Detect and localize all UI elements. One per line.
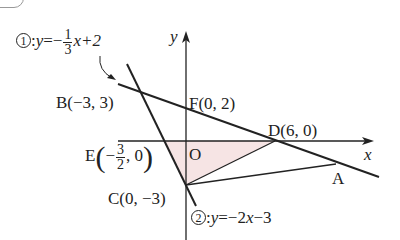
point-a-label: A [332,170,344,187]
point-c-label: C(0, −3) [108,190,166,207]
paren-open: ( [95,140,105,173]
eq1-rest: x+2 [73,31,101,50]
eq2-eq: =−2 [218,208,246,227]
eq2-x: x [246,208,254,227]
e-frac-num: 3 [116,143,125,158]
point-f-label: F(0, 2) [189,95,235,112]
circled-number-1: 1 [16,33,31,48]
pointer-arrowhead-icon [107,74,116,80]
e-frac-den: 2 [116,158,125,172]
x-axis-label: x [364,146,372,163]
eq1-frac-num: 1 [63,28,72,43]
eq1-frac-den: 3 [63,43,72,57]
point-d-label: D(6, 0) [268,122,317,139]
point-b-label: B(−3, 3) [56,94,114,111]
equation-2-label: 2:y=−2x−3 [191,209,272,226]
e-fraction: 32 [116,143,125,172]
eq2-rest: −3 [254,208,272,227]
eq1-eq: =− [43,31,62,50]
paren-close: ) [143,140,153,173]
e-name: E [85,146,95,165]
point-e-label: E(−32, 0) [85,142,153,172]
circled-number-2: 2 [191,210,206,225]
pointer-arrow [100,56,112,78]
e-pre: − [105,146,115,165]
eq1-fraction: 13 [63,28,72,57]
e-post: , 0 [126,146,143,165]
y-axis-label: y [170,28,178,45]
line-1 [118,84,379,177]
origin-label: O [189,146,201,163]
shaded-triangle [163,141,275,185]
equation-1-label: 1:y=−13x+2 [16,28,101,57]
